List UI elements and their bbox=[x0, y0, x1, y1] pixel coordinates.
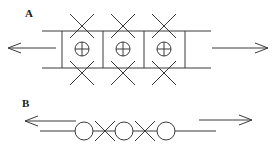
x-marks-top bbox=[70, 14, 176, 38]
arrow-left bbox=[8, 43, 56, 53]
circles bbox=[75, 122, 175, 140]
panel-label-b: B bbox=[22, 98, 29, 109]
arrow-head-stroke bbox=[8, 43, 21, 48]
arrow-head-stroke bbox=[255, 43, 268, 48]
arrow-head-stroke bbox=[239, 115, 252, 120]
circle-outline bbox=[115, 122, 133, 140]
x-mark bbox=[111, 14, 135, 38]
x-mark bbox=[152, 61, 176, 85]
circled-plus-icon bbox=[157, 42, 171, 56]
x-marks-bottom bbox=[70, 61, 176, 85]
circle-node bbox=[157, 122, 175, 140]
panel-label-a: A bbox=[25, 8, 33, 19]
arrow-head-stroke bbox=[25, 116, 38, 121]
x-mark bbox=[70, 14, 94, 38]
circled-plus-icon bbox=[75, 42, 89, 56]
arrow-head-stroke bbox=[25, 121, 38, 126]
arrow-right bbox=[199, 115, 252, 125]
x-mark bbox=[111, 61, 135, 85]
x-mark bbox=[152, 14, 176, 38]
arrow-head-stroke bbox=[255, 48, 268, 53]
figure-container: A B bbox=[0, 0, 275, 148]
arrow-right bbox=[212, 43, 268, 53]
circled-plus-icon bbox=[116, 42, 130, 56]
arrows-a bbox=[8, 43, 268, 53]
circled-plus-symbols bbox=[75, 42, 171, 56]
figure-diagram bbox=[0, 0, 275, 148]
panel-b bbox=[25, 115, 252, 141]
circle-node bbox=[75, 122, 93, 140]
x-mark bbox=[70, 61, 94, 85]
panel-a bbox=[8, 14, 268, 85]
arrow-left bbox=[25, 116, 76, 126]
circle-outline bbox=[75, 122, 93, 140]
arrow-head-stroke bbox=[8, 48, 21, 53]
arrow-head-stroke bbox=[239, 120, 252, 125]
circle-node bbox=[115, 122, 133, 140]
circle-outline bbox=[157, 122, 175, 140]
